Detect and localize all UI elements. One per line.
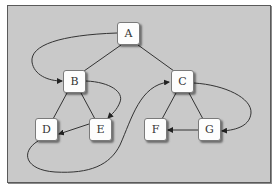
node-c[interactable]: C: [171, 70, 194, 93]
edge-b-d: [53, 93, 67, 119]
node-e[interactable]: E: [89, 118, 112, 141]
edge-a-b: [84, 45, 121, 71]
edge-c-f: [162, 93, 176, 119]
node-b-label: B: [70, 75, 78, 88]
node-c-label: C: [178, 75, 186, 88]
node-d-label: D: [42, 123, 51, 136]
node-b[interactable]: B: [63, 70, 86, 93]
node-f[interactable]: F: [144, 118, 167, 141]
node-e-label: E: [96, 123, 104, 136]
node-d[interactable]: D: [35, 118, 58, 141]
edge-c-g: [189, 93, 203, 119]
edge-b-e: [81, 93, 95, 119]
node-g[interactable]: G: [198, 118, 221, 141]
node-f-label: F: [152, 123, 160, 136]
edge-a-c: [138, 45, 174, 71]
arrow-e-to-d: [59, 124, 89, 134]
node-a-label: A: [125, 27, 133, 40]
node-g-label: G: [205, 123, 214, 136]
node-a[interactable]: A: [117, 22, 140, 45]
